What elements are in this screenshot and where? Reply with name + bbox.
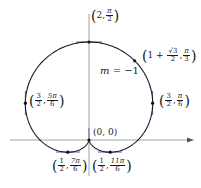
label-point-pi3: (1 + √32,π3) — [142, 48, 196, 63]
label-point-7pi6: (12,7π6) — [52, 158, 87, 173]
label-point-pi6: (32,π6) — [159, 93, 190, 108]
label-point-11pi6: (12,11π6) — [92, 158, 132, 173]
label-point-top: (2,π2) — [91, 8, 119, 23]
polar-cardioid-diagram: (2,π2) (1 + √32,π3) m = −1 (32,π6) (32,5… — [0, 0, 201, 188]
x-axis-arrow-icon — [187, 138, 194, 143]
label-point-5pi6: (32,5π6) — [29, 93, 64, 108]
label-origin: (0, 0) — [93, 128, 117, 137]
slope-label: m = −1 — [100, 66, 139, 76]
